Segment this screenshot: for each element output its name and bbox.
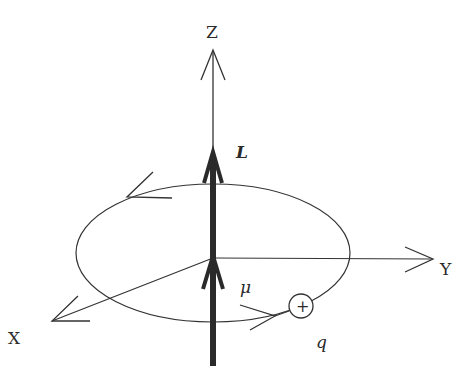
angular-momentum-label: L	[235, 142, 248, 162]
charge-sign: +	[296, 297, 309, 316]
magnetic-moment-label: μ	[240, 277, 251, 297]
x-axis-line	[52, 258, 213, 321]
y-axis-line	[213, 258, 432, 259]
charge-velocity-arrowhead	[240, 305, 275, 330]
x-axis-label: X	[8, 328, 21, 348]
z-axis-label: Z	[206, 22, 218, 42]
charge-label: q	[316, 332, 327, 352]
orbit-direction-arrowhead	[127, 172, 172, 198]
orbital-magnetic-moment-diagram: Z Y X L μ + q	[0, 0, 467, 376]
charge-velocity-stem	[275, 311, 289, 316]
y-axis-label: Y	[439, 259, 452, 279]
